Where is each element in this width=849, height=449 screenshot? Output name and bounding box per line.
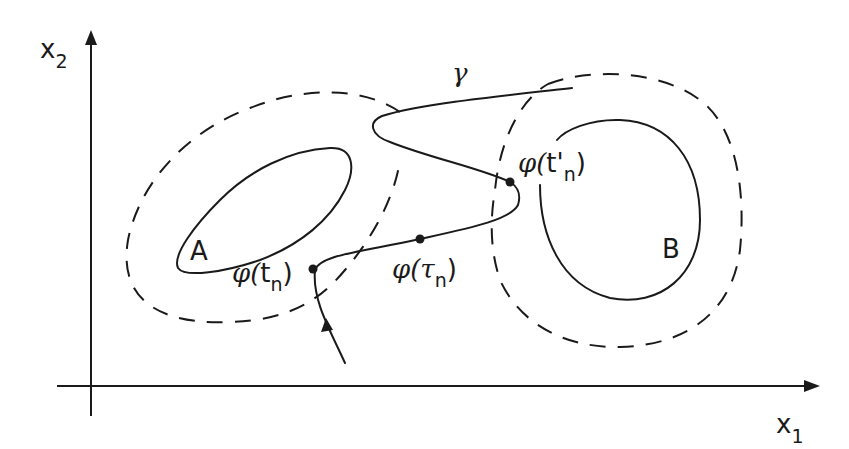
- phase-plane-diagram: x2 x1 A B γ φ(tn) φ(τn) φ(t'n): [0, 0, 849, 449]
- x1-axis-arrowhead-icon: [804, 380, 820, 392]
- label-phi-tn: φ(tn): [232, 258, 293, 295]
- axes: [57, 30, 820, 416]
- point-phi-tn-prime: [506, 178, 515, 187]
- trajectory-direction-arrow-icon: [321, 318, 333, 332]
- label-phi-taun: φ(τn): [392, 254, 457, 291]
- set-b-label: B: [662, 234, 680, 264]
- label-phi-tn-prime: φ(t'n): [518, 148, 586, 185]
- trajectory-gamma: [315, 88, 572, 363]
- set-b-neighborhood: [492, 74, 742, 347]
- set-b-boundary: [540, 120, 700, 300]
- point-phi-tn: [309, 265, 318, 274]
- x2-axis-label: x2: [40, 34, 67, 72]
- x1-axis-label: x1: [776, 409, 803, 447]
- trajectory-label: γ: [452, 58, 468, 88]
- set-a-label: A: [190, 236, 208, 266]
- x2-axis-arrowhead-icon: [85, 30, 97, 45]
- point-phi-taun: [416, 235, 425, 244]
